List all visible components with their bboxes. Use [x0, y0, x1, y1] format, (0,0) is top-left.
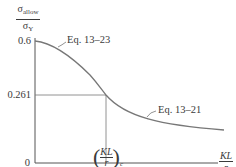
- tick-0.261: 0.261: [1, 89, 31, 100]
- annotation-eq-13-21: Eq. 13–21: [158, 104, 201, 115]
- leader-eq1: [58, 42, 66, 47]
- x-tick-critical: ( KL r ) c: [93, 146, 123, 167]
- x-axis-label: KLr: [216, 150, 236, 167]
- curve: [35, 41, 224, 130]
- leader-eq2: [147, 111, 156, 117]
- tick-0.6: 0.6: [1, 35, 31, 46]
- annotation-eq-13-23: Eq. 13–23: [67, 34, 110, 45]
- tick-0: 0: [0, 157, 30, 167]
- y-axis-label: σallow σY: [8, 3, 48, 35]
